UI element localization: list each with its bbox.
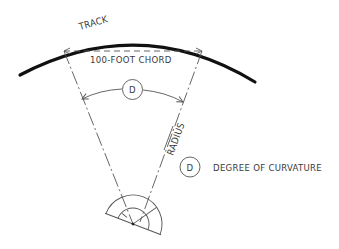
legend-text: DEGREE OF CURVATURE bbox=[213, 162, 322, 173]
track-label: TRACK bbox=[77, 13, 109, 32]
angle-arc-left bbox=[82, 89, 122, 99]
chord-label: 100-FOOT CHORD bbox=[90, 54, 172, 65]
protractor-icon bbox=[104, 186, 171, 236]
legend-symbol-label: D bbox=[187, 162, 194, 173]
radius-line-left bbox=[64, 51, 133, 224]
angle-arc-right bbox=[143, 90, 183, 102]
angle-symbol-label: D bbox=[129, 84, 136, 95]
degree-of-curvature-diagram: TRACK 100-FOOT CHORD RADIUS D D DEGREE O… bbox=[0, 0, 339, 249]
